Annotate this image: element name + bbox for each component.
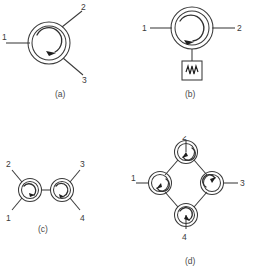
figure-panel-c: 2 1 3 4 (c) — [0, 136, 131, 272]
interconnect-bottom-left — [165, 192, 178, 207]
panel-caption-b: (b) — [185, 89, 196, 99]
circulation-arrowhead-icon-right — [210, 177, 216, 183]
port-line-3 — [63, 58, 83, 75]
port-line-4 — [70, 198, 80, 210]
panel-caption-c: (c) — [38, 224, 48, 234]
interconnect-top-right — [194, 160, 207, 175]
panel-caption-d: (d) — [185, 256, 196, 266]
port-label-2: 2 — [81, 2, 86, 12]
circulation-arrowhead-icon-left — [29, 193, 35, 197]
port-label-1: 1 — [131, 173, 136, 183]
circulator-outer-ring — [28, 22, 70, 64]
port-line-1 — [12, 198, 22, 210]
circulator-left-inner-ring — [152, 175, 169, 192]
port-label-1: 1 — [6, 213, 11, 223]
figure-panel-b: 1 2 (b) — [131, 0, 262, 136]
port-label-2: 2 — [6, 159, 11, 169]
port-label-2: 2 — [237, 23, 242, 33]
port-label-1: 1 — [142, 23, 147, 33]
port-line-2 — [62, 11, 82, 27]
port-label-3: 3 — [240, 178, 245, 188]
figure-panel-a: 1 2 3 (a) — [0, 0, 131, 136]
port-label-3: 3 — [80, 159, 85, 169]
circulation-arrowhead-icon-bottom — [184, 215, 190, 221]
port-label-1: 1 — [2, 32, 7, 42]
figure-panel-d: 2 1 3 4 (d) — [131, 136, 262, 272]
port-line-2 — [12, 170, 22, 182]
resistor-termination-box — [182, 61, 202, 80]
port-label-4: 4 — [80, 213, 85, 223]
circulation-arrowhead-icon-left — [156, 183, 162, 189]
port-line-3 — [70, 170, 80, 182]
port-label-2: 2 — [182, 136, 187, 142]
circulation-spiral-arrow — [37, 28, 62, 52]
circulation-spiral-arrow-left — [157, 179, 169, 191]
port-label-4: 4 — [182, 232, 187, 242]
circulation-spiral-arrow — [180, 15, 204, 41]
panel-caption-a: (a) — [55, 89, 66, 99]
circulation-spiral-arrow-right — [56, 183, 68, 196]
circulation-arrowhead-icon-top — [182, 152, 188, 158]
interconnect-bottom-right — [194, 192, 207, 207]
circulator-figure-group: 1 2 3 (a) 1 2 (b) — [0, 0, 262, 272]
port-label-3: 3 — [82, 75, 87, 85]
interconnect-top-left — [165, 160, 178, 175]
